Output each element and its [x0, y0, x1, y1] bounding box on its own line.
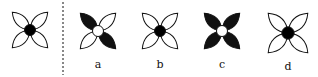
- flower-center: [155, 26, 166, 37]
- reference-flower: [9, 9, 52, 52]
- flower-center: [25, 25, 36, 36]
- option-label-d: d: [284, 60, 291, 73]
- option-flower-a: [77, 10, 120, 53]
- option-label-c: c: [219, 58, 225, 71]
- option-flower-d: [264, 9, 312, 57]
- option-label-a: a: [95, 58, 102, 71]
- option-flower-b: [139, 10, 182, 53]
- option-label-b: b: [156, 58, 163, 71]
- flower-center: [93, 26, 104, 37]
- flower-center: [282, 27, 294, 39]
- option-flower-c: [201, 10, 244, 53]
- flower-center: [217, 26, 228, 37]
